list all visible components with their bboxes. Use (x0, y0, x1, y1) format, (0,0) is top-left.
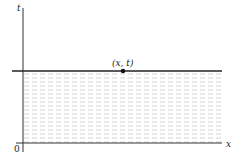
t-axis-label: t (17, 3, 21, 13)
diagram-canvas: t x 0 (x, t) (0, 0, 238, 159)
point-label: (x, t) (112, 58, 134, 68)
shaded-region (23, 72, 222, 143)
point-marker (121, 69, 126, 74)
x-axis-label: x (226, 139, 231, 149)
origin-label: 0 (14, 144, 20, 154)
